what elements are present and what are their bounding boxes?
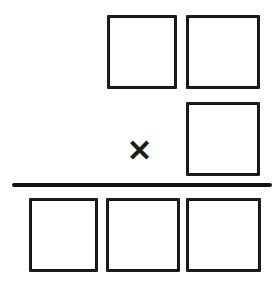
denominator-box-3[interactable] [186,198,261,272]
denominator-box-2[interactable] [106,198,180,272]
math-worksheet-figure: ✕ [0,0,278,287]
denominator-box-1[interactable] [29,198,98,272]
division-bar [12,183,272,187]
numerator-box-2[interactable] [186,15,260,89]
multiplication-sign-icon: ✕ [109,136,169,166]
numerator-box-1[interactable] [107,15,177,89]
numerator-box-3[interactable] [186,102,260,176]
